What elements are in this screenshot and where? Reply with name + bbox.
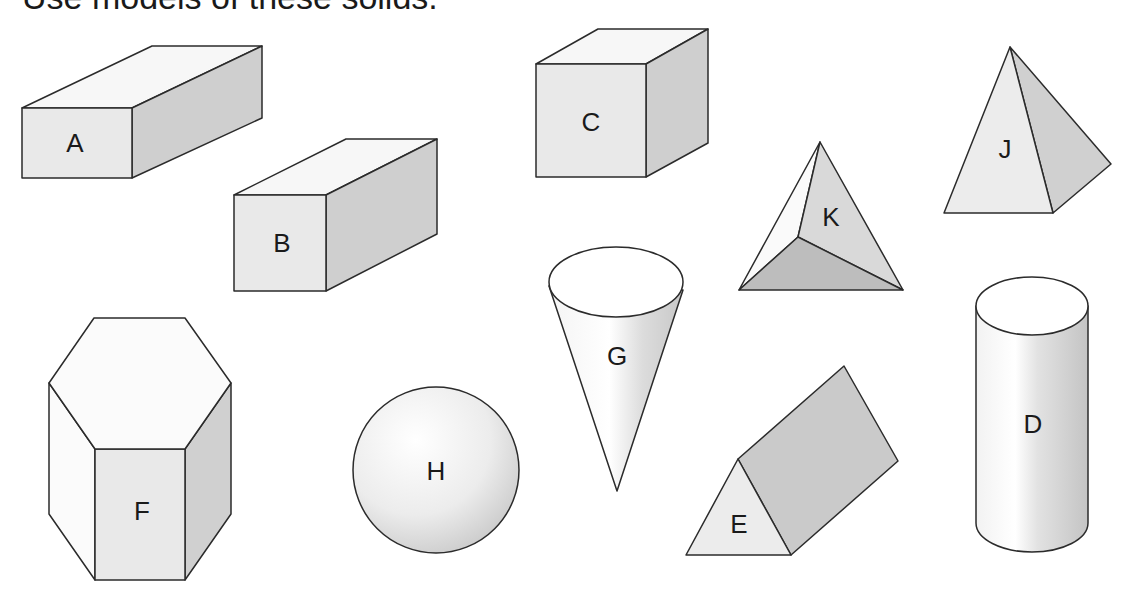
label-f: F <box>134 496 150 526</box>
solid-h: H <box>353 387 519 553</box>
solids-diagram: A B C K J G F <box>0 0 1130 599</box>
label-c: C <box>582 107 601 137</box>
solid-a: A <box>22 46 262 178</box>
solid-g: G <box>549 247 683 491</box>
label-a: A <box>66 128 84 158</box>
solid-j: J <box>944 47 1111 213</box>
label-e: E <box>730 509 747 539</box>
solid-d: D <box>976 277 1088 552</box>
label-j: J <box>999 134 1012 164</box>
solid-f: F <box>49 318 231 580</box>
label-g: G <box>607 341 627 371</box>
label-k: K <box>822 202 840 232</box>
label-b: B <box>273 228 290 258</box>
label-d: D <box>1024 409 1043 439</box>
solid-e: E <box>686 366 898 555</box>
label-h: H <box>427 456 446 486</box>
solid-k: K <box>739 142 903 290</box>
solid-b: B <box>234 139 437 291</box>
solid-c: C <box>536 29 708 177</box>
